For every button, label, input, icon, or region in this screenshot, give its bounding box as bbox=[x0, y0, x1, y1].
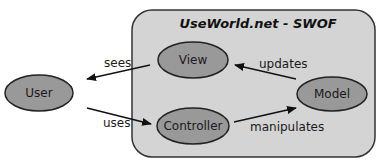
edge-sees-label: sees bbox=[104, 56, 131, 70]
node-user: User bbox=[5, 75, 73, 111]
node-view-label: View bbox=[179, 53, 208, 67]
node-model: Model bbox=[297, 77, 367, 111]
node-user-label: User bbox=[25, 86, 52, 100]
container-title: UseWorld.net - SWOF bbox=[179, 16, 336, 31]
node-view: View bbox=[158, 42, 228, 78]
node-controller: Controller bbox=[157, 108, 229, 144]
node-model-label: Model bbox=[314, 87, 350, 101]
edge-manipulates-label: manipulates bbox=[250, 120, 324, 134]
mvc-diagram: UseWorld.net - SWOF User View Controller… bbox=[0, 0, 388, 166]
node-controller-label: Controller bbox=[163, 119, 222, 133]
edge-uses-label: uses bbox=[103, 116, 131, 130]
edge-updates-label: updates bbox=[259, 57, 308, 71]
